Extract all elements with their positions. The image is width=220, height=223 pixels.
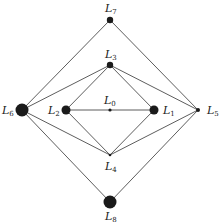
node-l0: [108, 108, 111, 111]
edge-l8-l6: [22, 110, 110, 202]
edge-l3-l6: [22, 65, 110, 110]
label-l4: L4: [104, 160, 117, 174]
label-l6: L6: [1, 104, 14, 118]
edge-l4-l6: [22, 110, 110, 155]
edge-l3-l1: [110, 65, 154, 110]
edge-l4-l1: [110, 110, 154, 155]
labels-group: L0L1L2L3L4L5L6L7L8: [1, 2, 219, 223]
node-l2: [62, 106, 71, 115]
label-subscript: 7: [112, 8, 116, 16]
node-l3: [107, 62, 113, 68]
node-l4: [109, 154, 112, 157]
node-l5: [196, 108, 200, 112]
label-l3: L3: [104, 48, 117, 62]
edge-l8-l5: [110, 110, 198, 202]
label-l5: L5: [206, 104, 219, 118]
label-subscript: 2: [55, 110, 59, 118]
node-l7: [107, 17, 113, 23]
label-l2: L2: [47, 104, 60, 118]
edge-l4-l2: [66, 110, 110, 155]
lattice-diagram: L0L1L2L3L4L5L6L7L8: [0, 0, 220, 223]
node-l6: [16, 104, 29, 117]
label-subscript: 1: [170, 110, 174, 118]
label-subscript: 3: [112, 54, 116, 62]
edge-l7-l5: [110, 20, 198, 110]
label-subscript: 0: [111, 100, 115, 108]
edge-l4-l5: [110, 110, 198, 155]
label-subscript: 5: [214, 110, 218, 118]
edge-l3-l5: [110, 65, 198, 110]
label-l1: L1: [162, 104, 175, 118]
label-subscript: 6: [9, 110, 14, 118]
node-l1: [150, 106, 159, 115]
node-l8: [104, 196, 117, 209]
label-subscript: 8: [112, 216, 116, 223]
label-l0: L0: [103, 94, 116, 108]
edge-l7-l6: [22, 20, 110, 110]
label-l8: L8: [104, 210, 117, 223]
label-subscript: 4: [112, 166, 117, 174]
label-l7: L7: [104, 2, 117, 16]
